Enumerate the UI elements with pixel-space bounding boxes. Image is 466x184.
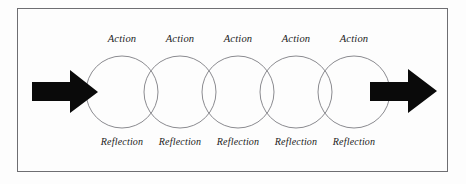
figure-canvas: Action Action Action Action Action Refle… xyxy=(0,0,466,184)
action-label-1: Action xyxy=(108,31,137,47)
action-label-3: Action xyxy=(224,31,253,47)
action-label-row: Action Action Action Action Action xyxy=(0,31,466,47)
reflection-label-3: Reflection xyxy=(217,134,260,150)
input-arrow-icon xyxy=(32,70,98,113)
action-label-5: Action xyxy=(340,31,369,47)
output-arrow-icon xyxy=(370,69,437,113)
cycle-circle-4 xyxy=(260,56,332,128)
action-label-4: Action xyxy=(282,31,311,47)
reflection-label-row: Reflection Reflection Reflection Reflect… xyxy=(0,134,466,150)
reflection-label-1: Reflection xyxy=(101,134,144,150)
reflection-label-2: Reflection xyxy=(159,134,202,150)
reflection-label-5: Reflection xyxy=(333,134,376,150)
reflection-label-4: Reflection xyxy=(275,134,318,150)
circle-chain xyxy=(86,56,390,128)
cycle-circle-2 xyxy=(144,56,216,128)
cycle-diagram-graphics xyxy=(0,0,466,184)
cycle-circle-3 xyxy=(202,56,274,128)
action-label-2: Action xyxy=(166,31,195,47)
